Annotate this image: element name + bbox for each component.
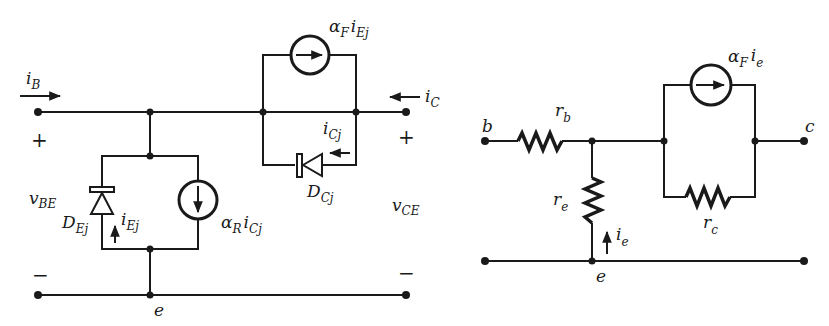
junction (589, 138, 596, 145)
wire (329, 55, 356, 112)
minus-right: − (398, 261, 415, 285)
label-vce: vCE (392, 195, 420, 218)
label-alphaf-iej: αFiEj (329, 16, 369, 40)
label-alphaf-ie: αFie (728, 45, 763, 70)
junction (260, 109, 267, 116)
label-node-e: e (154, 300, 164, 320)
label-icj: iCj (323, 118, 342, 142)
wire (102, 156, 198, 188)
wire (102, 214, 198, 249)
terminal-c (800, 137, 808, 145)
resistor-rc-icon (686, 188, 730, 206)
resistor-rb-icon (518, 133, 562, 150)
terminal-collector (402, 108, 410, 116)
label-re: re (553, 189, 568, 214)
resistor-re-icon (585, 178, 601, 223)
diode-dcj-icon (297, 154, 322, 177)
junction (147, 153, 154, 160)
label-node-b: b (482, 116, 493, 136)
diode-dej-icon (90, 187, 114, 214)
current-source-down-icon (179, 181, 217, 219)
terminal-b (481, 137, 489, 145)
label-node-c: c (805, 116, 815, 136)
label-vbe: vBE (29, 188, 56, 211)
label-dcj: DCj (306, 181, 334, 205)
junction (353, 109, 360, 116)
wire (664, 85, 691, 141)
plus-right: + (398, 125, 415, 149)
label-ic: iC (425, 86, 440, 110)
current-source-right-icon (291, 36, 329, 74)
label-rb: rb (555, 100, 571, 125)
current-source-right-icon (691, 65, 731, 105)
bjt-circuit-diagrams: iB iC + + − − vBE vCE e DEj iEj αRiCj αF… (0, 0, 829, 326)
junction-emitter (147, 292, 154, 299)
minus-left: − (32, 263, 49, 287)
plus-left: + (31, 128, 48, 152)
t-model-circuit: b c e rb re rc ie αFie (481, 45, 815, 286)
ebers-moll-circuit: iB iC + + − − vBE vCE e DEj iEj αRiCj αF… (20, 16, 440, 320)
label-alphar-icj: αRiCj (221, 212, 262, 236)
terminal-emitter-right (402, 291, 410, 299)
wire (263, 112, 295, 165)
terminal-right-bottom (800, 257, 808, 265)
label-node-e: e (596, 266, 606, 286)
label-dej: DEj (61, 212, 88, 236)
junction (752, 138, 759, 145)
label-ib: iB (26, 68, 40, 92)
wire (731, 85, 755, 141)
terminal-left-bottom (481, 257, 489, 265)
label-rc: rc (703, 212, 718, 237)
junction-e (589, 258, 596, 265)
wire (730, 141, 755, 197)
wire (664, 141, 686, 197)
wire (263, 55, 291, 112)
label-iej: iEj (121, 209, 139, 233)
junction (661, 138, 668, 145)
junction (147, 109, 154, 116)
junction (147, 246, 154, 253)
terminal-base (34, 108, 42, 116)
label-ie: ie (616, 224, 629, 249)
terminal-emitter-left (34, 291, 42, 299)
